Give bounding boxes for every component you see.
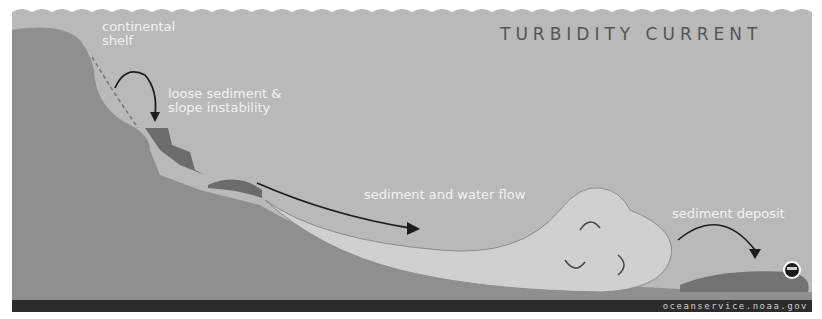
label-line: shelf: [102, 34, 175, 48]
label-deposit: sediment deposit: [672, 207, 785, 221]
label-line: loose sediment &: [168, 87, 281, 101]
diagram-title: TURBIDITY CURRENT: [500, 24, 762, 44]
label-loose-sediment: loose sediment & slope instability: [168, 87, 281, 115]
noaa-logo-icon: [783, 261, 801, 279]
label-flow: sediment and water flow: [364, 188, 525, 202]
label-line: continental: [102, 20, 175, 34]
label-continental-shelf: continental shelf: [102, 20, 175, 48]
label-line: slope instability: [168, 101, 281, 115]
source-credit: oceanservice.noaa.gov: [663, 301, 808, 311]
